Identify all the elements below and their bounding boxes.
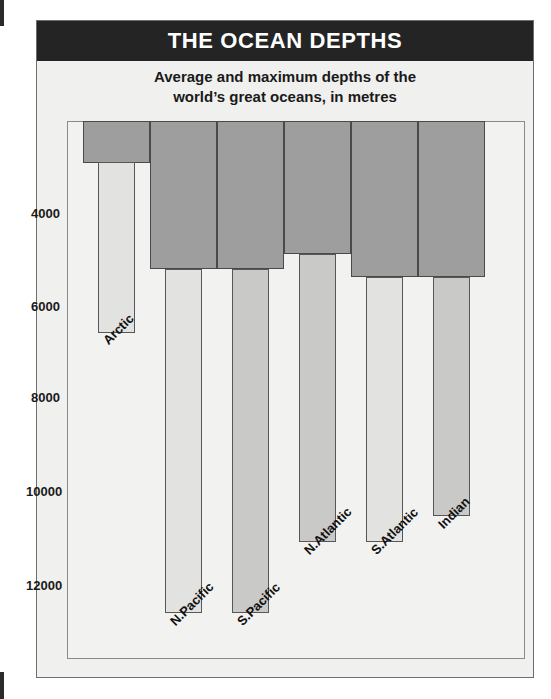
chart-subtitle-line-1: Average and maximum depths of the xyxy=(37,67,533,87)
bar-average-s-pacific xyxy=(217,121,284,269)
chart-subtitle-line-2: world’s great oceans, in metres xyxy=(37,87,533,107)
page-gutter-mark-bottom xyxy=(0,672,4,699)
bar-maximum-s-pacific xyxy=(232,269,269,613)
y-tick-label-8000: 8000 xyxy=(31,390,60,405)
bar-maximum-n-atlantic xyxy=(299,254,336,542)
page-gutter-mark-top xyxy=(0,0,4,26)
bar-average-n-pacific xyxy=(150,121,217,269)
chart-panel: THE OCEAN DEPTHS Average and maximum dep… xyxy=(36,20,534,678)
chart-subtitle: Average and maximum depths of the world’… xyxy=(37,67,533,108)
bar-average-indian xyxy=(418,121,485,277)
bar-average-n-atlantic xyxy=(284,121,351,254)
bar-maximum-n-pacific xyxy=(165,269,202,613)
bar-average-arctic xyxy=(83,121,150,163)
y-tick-label-10000: 10000 xyxy=(26,484,62,499)
y-tick-label-4000: 4000 xyxy=(31,206,60,221)
chart-page: THE OCEAN DEPTHS Average and maximum dep… xyxy=(0,0,551,699)
bar-maximum-arctic xyxy=(98,162,135,333)
bar-average-s-atlantic xyxy=(351,121,418,277)
bar-maximum-s-atlantic xyxy=(366,277,403,542)
title-bar: THE OCEAN DEPTHS xyxy=(37,21,533,61)
bar-maximum-indian xyxy=(433,277,470,516)
page-title: THE OCEAN DEPTHS xyxy=(168,28,403,54)
y-tick-label-6000: 6000 xyxy=(31,299,60,314)
plot-area: Arctic N.Pacific S.Pacific N.Atlantic S.… xyxy=(67,121,525,659)
y-tick-label-12000: 12000 xyxy=(26,578,62,593)
